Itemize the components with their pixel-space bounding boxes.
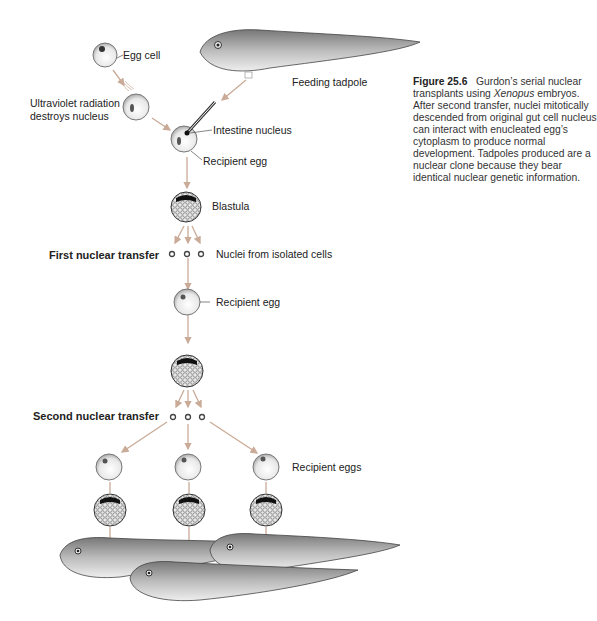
recipient-eggs-row [96,454,279,480]
label-recipient-egg-1: Recipient egg [203,155,267,167]
blastula-1 [171,192,201,222]
figure-caption: Figure 25.6 Gurdon’s serial nuclear tran… [413,76,597,184]
caption-text-post: embryos. After second transfer, nuclei m… [413,88,597,183]
recipient-egg-1 [171,102,215,160]
label-first-nuclear-transfer: First nuclear transfer [49,249,159,261]
label-recipient-egg-2: Recipient egg [216,296,280,308]
nuclei-row-2 [171,415,205,420]
clone-tadpoles [60,534,400,601]
caption-species: Xenopus [494,88,535,99]
label-intestine-nucleus: Intestine nucleus [213,124,292,136]
enucleated-egg [123,94,149,120]
egg-cell [93,43,123,67]
label-blastula: Blastula [212,200,249,212]
label-recipient-eggs: Recipient eggs [292,461,361,473]
blastulas-row [94,494,282,526]
label-second-nuclear-transfer: Second nuclear transfer [33,410,159,422]
recipient-egg-2 [174,289,210,315]
feeding-tadpole-illustration [200,30,420,78]
figure-number: Figure 25.6 [413,76,467,87]
nuclei-row-1 [170,252,204,257]
label-nuclei-isolated: Nuclei from isolated cells [216,248,332,260]
label-uv-line2: destroys nucleus [30,110,109,122]
label-uv-line1: Ultraviolet radiation [30,97,120,109]
label-feeding-tadpole: Feeding tadpole [292,76,367,88]
blastula-2 [171,355,203,387]
label-egg-cell: Egg cell [123,49,160,61]
